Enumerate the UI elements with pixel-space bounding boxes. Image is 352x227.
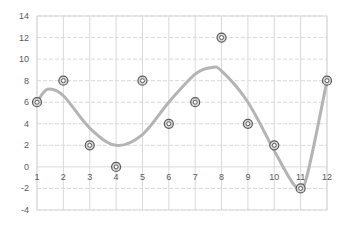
y-tick-label: 0 (24, 162, 29, 172)
x-tick-label: 10 (269, 172, 279, 182)
data-point-marker (217, 33, 226, 42)
x-tick-label: 4 (114, 172, 119, 182)
data-point-marker (191, 98, 200, 107)
data-point-marker (85, 141, 94, 150)
data-point-marker (59, 76, 68, 85)
y-tick-label: 6 (24, 97, 29, 107)
x-tick-label: 6 (166, 172, 171, 182)
x-tick-label: 7 (193, 172, 198, 182)
data-point-marker (323, 76, 332, 85)
data-point-marker (112, 162, 121, 171)
x-tick-label: 5 (140, 172, 145, 182)
data-point-marker (138, 76, 147, 85)
x-tick-label: 9 (245, 172, 250, 182)
data-point-marker (164, 119, 173, 128)
y-tick-label: 2 (24, 140, 29, 150)
trendline-curve (37, 67, 327, 192)
scatter-chart: 14121086420-2-4 123456789101112 (0, 0, 352, 227)
data-point-marker (33, 98, 42, 107)
gridlines (37, 16, 327, 210)
x-tick-label: 11 (296, 172, 305, 182)
data-point-marker (270, 141, 279, 150)
x-tick-label: 12 (322, 172, 332, 182)
y-tick-label: 14 (19, 11, 29, 21)
y-tick-label: 4 (24, 119, 29, 129)
x-tick-label: 1 (34, 172, 39, 182)
y-tick-label: 8 (24, 76, 29, 86)
x-tick-label: 8 (219, 172, 224, 182)
y-tick-label: -2 (21, 183, 29, 193)
y-axis-tick-labels: 14121086420-2-4 (19, 11, 29, 215)
y-tick-label: 10 (19, 54, 29, 64)
plot-area-border (37, 16, 327, 210)
x-tick-label: 3 (87, 172, 92, 182)
y-tick-label: -4 (21, 205, 29, 215)
data-point-marker (296, 184, 305, 193)
data-point-marker (243, 119, 252, 128)
x-tick-label: 2 (61, 172, 66, 182)
y-tick-label: 12 (19, 33, 29, 43)
